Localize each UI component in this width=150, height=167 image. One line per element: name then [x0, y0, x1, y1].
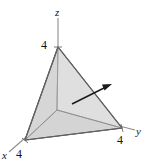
tetrahedron-diagram — [0, 0, 150, 167]
y-intercept-label: 4 — [117, 134, 123, 146]
x-axis-label: x — [2, 150, 7, 161]
normal-arrow-head — [102, 84, 112, 91]
x-intercept-label: 4 — [16, 148, 22, 160]
z-axis-label: z — [55, 7, 59, 18]
figure-container: z y x 4 4 4 — [0, 0, 150, 167]
z-intercept-label: 4 — [41, 39, 47, 51]
y-axis-label: y — [136, 126, 141, 137]
